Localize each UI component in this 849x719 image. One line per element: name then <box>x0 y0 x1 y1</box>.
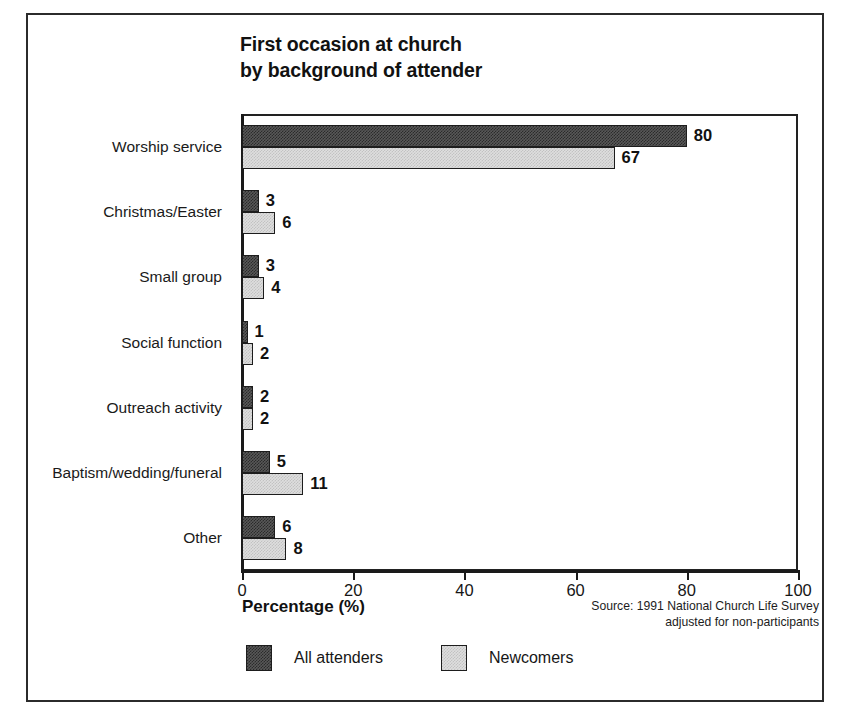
bar-all-attenders <box>242 190 259 212</box>
bar-value-label: 2 <box>260 408 269 430</box>
bar-newcomers <box>242 343 253 365</box>
bar-value-label: 2 <box>260 386 269 408</box>
legend-item: All attenders <box>246 645 383 671</box>
bar-all-attenders <box>242 321 248 343</box>
bar-all-attenders <box>242 255 259 277</box>
x-axis-tick-label: 40 <box>455 581 473 600</box>
x-axis-tick-label: 100 <box>784 581 812 600</box>
legend-item: Newcomers <box>441 645 573 671</box>
bar-all-attenders <box>242 516 275 538</box>
category-label: Small group <box>0 267 232 287</box>
x-axis-tick-label: 60 <box>566 581 584 600</box>
bar-all-attenders <box>242 451 270 473</box>
x-axis-tick <box>353 573 355 580</box>
category-label: Other <box>0 528 232 548</box>
x-axis-tick <box>242 573 244 580</box>
x-axis-tick <box>464 573 466 580</box>
legend-swatch <box>246 645 272 671</box>
bars-layer: 80673634122251168 <box>242 114 798 571</box>
x-axis-title: Percentage (%) <box>242 597 365 617</box>
bar-all-attenders <box>242 386 253 408</box>
bar-value-label: 1 <box>255 321 264 343</box>
bar-all-attenders <box>242 125 687 147</box>
bar-newcomers <box>242 147 615 169</box>
bar-value-label: 6 <box>282 516 291 538</box>
bar-value-label: 3 <box>266 255 275 277</box>
chart-legend: All attendersNewcomers <box>246 645 573 671</box>
bar-value-label: 67 <box>622 147 640 169</box>
bar-value-label: 4 <box>271 277 280 299</box>
bar-value-label: 2 <box>260 343 269 365</box>
category-axis-labels: Worship serviceChristmas/EasterSmall gro… <box>0 114 232 571</box>
source-note: Source: 1991 National Church Life Survey… <box>489 599 819 630</box>
bar-newcomers <box>242 212 275 234</box>
category-label: Baptism/wedding/funeral <box>0 463 232 483</box>
x-axis-tick <box>687 573 689 580</box>
bar-value-label: 6 <box>282 212 291 234</box>
bar-value-label: 80 <box>694 125 712 147</box>
bar-newcomers <box>242 538 286 560</box>
bar-newcomers <box>242 408 253 430</box>
chart-title: First occasion at church by background o… <box>240 32 482 83</box>
category-label: Christmas/Easter <box>0 202 232 222</box>
bar-value-label: 8 <box>293 538 302 560</box>
bar-value-label: 5 <box>277 451 286 473</box>
bar-newcomers <box>242 473 303 495</box>
legend-label: All attenders <box>294 649 383 667</box>
x-axis-tick-label: 80 <box>678 581 696 600</box>
bar-value-label: 11 <box>310 473 327 495</box>
category-label: Outreach activity <box>0 398 232 418</box>
x-axis-tick <box>798 573 800 580</box>
legend-swatch <box>441 645 467 671</box>
bar-value-label: 3 <box>266 190 275 212</box>
bar-newcomers <box>242 277 264 299</box>
category-label: Social function <box>0 333 232 353</box>
legend-label: Newcomers <box>489 649 573 667</box>
x-axis-tick <box>576 573 578 580</box>
category-label: Worship service <box>0 137 232 157</box>
